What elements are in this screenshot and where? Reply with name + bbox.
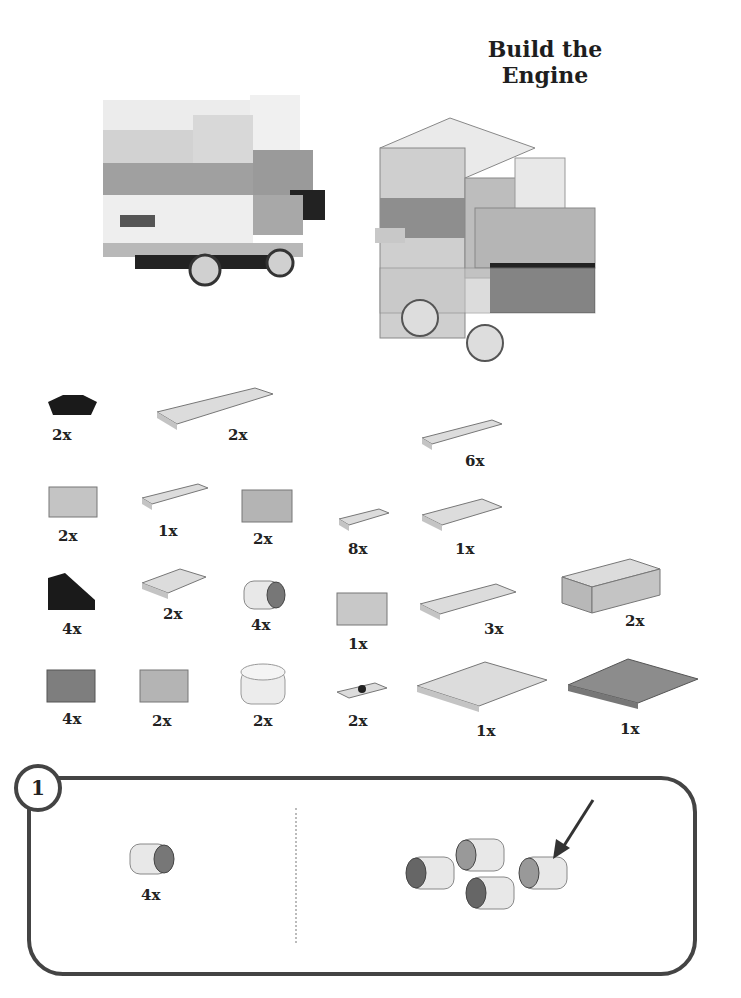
part-plate-1x4	[420, 418, 505, 453]
page-title: Build the Engine	[470, 36, 620, 88]
part-round-brick-2x2	[238, 658, 288, 708]
part-qty: 2x	[253, 712, 272, 730]
part-qty: 2x	[152, 712, 171, 730]
arrow-icon	[550, 797, 600, 862]
part-qty: 2x	[52, 426, 71, 444]
part-brick-1x2-c	[335, 583, 390, 628]
part-brick-1x2	[47, 475, 99, 520]
part-qty: 2x	[253, 530, 272, 548]
step-part-qty: 4x	[141, 886, 160, 904]
part-qty: 4x	[251, 616, 270, 634]
part-qty: 4x	[62, 710, 81, 728]
part-qty: 2x	[58, 527, 77, 545]
part-qty: 1x	[620, 720, 639, 738]
part-qty: 1x	[348, 635, 367, 653]
part-qty: 4x	[62, 620, 81, 638]
part-plate-4x6	[415, 658, 550, 718]
part-black-slope-1x2	[45, 568, 100, 613]
assembled-engine-render	[365, 118, 600, 363]
step-divider	[295, 808, 297, 943]
part-jumper-plate-1x2	[335, 680, 390, 705]
part-black-wheel-holder-plate	[45, 390, 100, 420]
part-plate-2x2	[140, 565, 210, 605]
step-number: 1	[14, 764, 62, 812]
part-wheel	[240, 575, 288, 615]
part-qty: 3x	[484, 620, 503, 638]
part-brick-1x2-d	[138, 660, 190, 705]
part-plate-1x2	[337, 505, 392, 535]
part-plate-2x6	[155, 380, 275, 430]
part-dark-plate-4x6	[566, 655, 701, 715]
part-qty: 2x	[163, 605, 182, 623]
assembled-engine-photo	[95, 95, 335, 285]
part-qty: 1x	[158, 522, 177, 540]
part-plate-2x4	[418, 580, 518, 625]
part-qty: 1x	[476, 722, 495, 740]
part-qty: 6x	[465, 452, 484, 470]
step-part-wheel	[126, 838, 176, 880]
part-qty: 2x	[228, 426, 247, 444]
part-dark-brick-1x2	[45, 660, 97, 705]
part-qty: 1x	[455, 540, 474, 558]
part-qty: 2x	[348, 712, 367, 730]
part-plate-1x3	[140, 480, 210, 515]
part-brick-1x2-b	[240, 478, 295, 523]
part-qty: 8x	[348, 540, 367, 558]
part-plate-2x3	[420, 495, 505, 535]
part-brick-2x4	[560, 555, 665, 615]
part-qty: 2x	[625, 612, 644, 630]
